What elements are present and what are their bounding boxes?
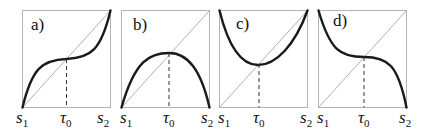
tick-tau0: τ0: [60, 108, 72, 129]
tick-s1: s1: [120, 108, 132, 129]
identity-diagonal: [220, 11, 308, 108]
panel-label: b): [133, 15, 147, 34]
panel-label: c): [236, 14, 249, 33]
panel-a: a) s1 τ0 s2: [16, 11, 111, 130]
map-curve: [220, 11, 308, 66]
tick-s1: s1: [218, 108, 230, 129]
tick-tau0: τ0: [253, 108, 265, 129]
figure: a) s1 τ0 s2 b) s1 τ0 s2 c) s1 τ0 s2 d) s…: [0, 0, 431, 130]
tick-s2: s2: [300, 108, 312, 129]
panel-c: c) s1 τ0 s2: [218, 11, 312, 130]
panel-label: d): [333, 11, 347, 30]
panel-b: b) s1 τ0 s2: [120, 11, 213, 130]
tick-tau0: τ0: [358, 108, 370, 129]
panel-label: a): [31, 15, 44, 34]
map-curve: [122, 53, 210, 108]
identity-diagonal: [319, 11, 407, 108]
tick-s1: s1: [16, 108, 28, 129]
panel-d: d) s1 τ0 s2: [317, 11, 411, 130]
tick-s2: s2: [399, 108, 411, 129]
tick-s2: s2: [97, 108, 109, 129]
tick-tau0: τ0: [163, 108, 175, 129]
tick-s2: s2: [201, 108, 213, 129]
tick-s1: s1: [317, 108, 329, 129]
